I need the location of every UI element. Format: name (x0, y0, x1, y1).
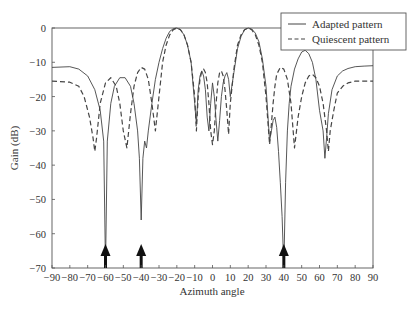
x-tick-label: −30 (151, 272, 167, 283)
legend-item-quiescent: Quiescent pattern (312, 33, 390, 45)
x-tick-label: −20 (169, 272, 185, 283)
jammer-arrow-icon (279, 244, 289, 268)
jammer-arrow-icon (136, 244, 146, 268)
jammer-arrow-icon (101, 244, 111, 268)
x-tick-label: 90 (368, 272, 379, 283)
x-tick-label: 40 (279, 272, 290, 283)
x-tick-label: 50 (296, 272, 307, 283)
y-tick-label: −10 (30, 57, 46, 68)
y-tick-label: −50 (30, 194, 46, 205)
y-tick-label: −20 (30, 92, 46, 103)
x-tick-label: −60 (97, 272, 113, 283)
y-tick-label: −70 (30, 263, 46, 274)
x-tick-label: −40 (133, 272, 149, 283)
x-tick-label: −50 (115, 272, 131, 283)
x-tick-label: −10 (186, 272, 202, 283)
x-tick-label: 70 (332, 272, 343, 283)
y-tick-label: −60 (30, 229, 46, 240)
x-tick-label: 20 (243, 272, 254, 283)
x-axis-label: Azimuth angle (179, 285, 244, 297)
x-tick-label: 30 (261, 272, 272, 283)
y-tick-label: 0 (41, 23, 46, 34)
plot-area (52, 28, 373, 268)
x-tick-label: 60 (314, 272, 325, 283)
y-axis-ticks: 0−10−20−30−40−50−60−70 (30, 23, 55, 274)
x-tick-label: −70 (79, 272, 95, 283)
chart: −90−80−70−60−50−40−30−20−100102030405060… (0, 0, 413, 311)
jammer-arrows (101, 244, 289, 268)
curves (52, 28, 373, 268)
legend-item-adapted: Adapted pattern (312, 18, 383, 30)
x-tick-label: 10 (225, 272, 236, 283)
x-tick-label: 80 (350, 272, 361, 283)
adapted-pattern-line (52, 28, 373, 268)
y-tick-label: −30 (30, 126, 46, 137)
plot-frame (52, 28, 373, 268)
y-tick-label: −40 (30, 160, 46, 171)
legend: Adapted pattern Quiescent pattern (281, 13, 406, 50)
x-tick-label: 0 (210, 272, 215, 283)
y-axis-label: Gain (dB) (8, 126, 21, 171)
x-tick-label: −80 (62, 272, 78, 283)
x-tick-label: −90 (44, 272, 60, 283)
